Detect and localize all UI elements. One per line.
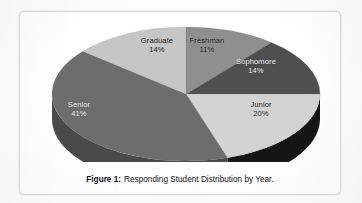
slice-label-junior-percent: 20% [238, 110, 284, 119]
slice-label-sophomore-percent: 14% [225, 67, 287, 76]
slice-label-sophomore: Sophomore 14% [225, 58, 287, 75]
figure-caption-number: Figure 1: [86, 175, 121, 184]
figure-caption: Figure 1:Responding Student Distribution… [20, 175, 340, 184]
slice-label-freshman-percent: 11% [180, 46, 234, 55]
slice-label-freshman: Freshman 11% [180, 37, 234, 54]
slice-label-senior-percent: 41% [55, 110, 103, 119]
figure-page: Graduate 14% Freshman 11% Sophomore 14% … [0, 0, 362, 203]
slice-label-junior: Junior 20% [238, 101, 284, 118]
slice-label-senior: Senior 41% [55, 101, 103, 118]
pie-chart-svg [20, 12, 342, 162]
figure-frame: Graduate 14% Freshman 11% Sophomore 14% … [19, 11, 341, 195]
figure-caption-text: Responding Student Distribution by Year. [124, 175, 274, 184]
pie-chart: Graduate 14% Freshman 11% Sophomore 14% … [20, 12, 342, 162]
slice-label-graduate-percent: 14% [128, 46, 186, 55]
slice-label-graduate: Graduate 14% [128, 37, 186, 54]
